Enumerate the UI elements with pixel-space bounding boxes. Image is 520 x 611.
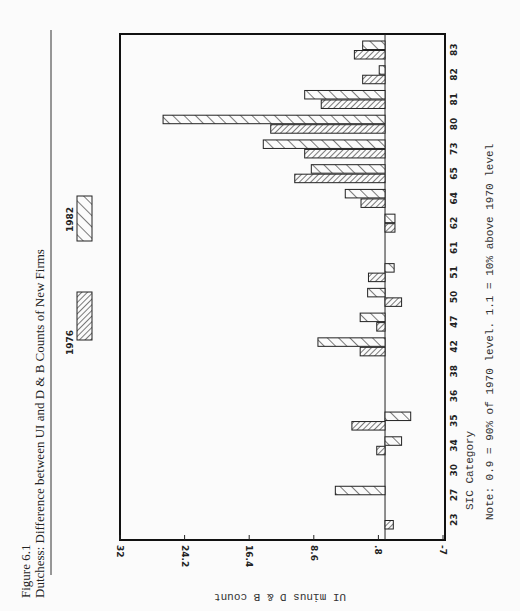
value-axis-title: UI minus D & B count (214, 591, 346, 603)
bar-1976-sic-73 (305, 149, 385, 158)
value-tick-label: 32 (115, 545, 125, 558)
category-tick-label: 35 (449, 415, 459, 428)
figure-title: Dutchess: Difference between UI and D & … (32, 249, 47, 598)
bar-1976-sic-64 (361, 199, 385, 208)
bar-1982-sic-65 (311, 165, 385, 174)
bar-1976-sic-81 (321, 100, 385, 109)
category-axis-title: SIC Category (464, 430, 476, 510)
bar-1982-sic-51 (385, 264, 394, 273)
plot-frame (120, 34, 445, 540)
legend-swatch-1982 (77, 196, 92, 241)
bar-1976-sic-83 (354, 51, 385, 60)
category-tick-label: 27 (449, 489, 459, 502)
bar-1982-sic-47 (360, 313, 385, 322)
bar-1976-sic-82 (363, 75, 385, 84)
chart: Figure 6.1 Dutchess: Difference between … (0, 0, 520, 611)
category-tick-label: 81 (449, 93, 459, 106)
bar-1976-sic-80 (271, 125, 385, 134)
legend-label-1976: 1976 (65, 330, 75, 355)
value-tick-label: 8.6 (309, 545, 319, 561)
category-tick-label: 30 (449, 464, 459, 477)
value-tick-label: 24.2 (180, 545, 190, 567)
bar-1976-sic-65 (295, 174, 385, 183)
category-tick-label: 38 (449, 365, 459, 378)
category-tick-label: 65 (449, 167, 459, 180)
legend: 1976 1982 (65, 196, 92, 355)
bar-1976-sic-50 (385, 298, 402, 307)
bar-1982-sic-81 (305, 90, 385, 99)
category-tick-label: 23 (449, 513, 459, 526)
bar-1982-sic-42 (318, 338, 385, 347)
bar-1982-sic-82 (379, 66, 385, 75)
bar-1976-sic-51 (368, 273, 385, 282)
category-axis-ticks: 2327303435363842475051616264657380818283 (449, 43, 459, 526)
bar-1976-sic-62 (385, 224, 395, 233)
bar-1976-sic-23 (385, 521, 393, 530)
category-tick-label: 82 (449, 68, 459, 81)
bar-1976-sic-34 (377, 446, 385, 455)
legend-label-1982: 1982 (65, 207, 75, 232)
figure-caption: Figure 6.1 Dutchess: Difference between … (18, 30, 51, 598)
bar-1976-sic-35 (352, 422, 385, 431)
bar-1982-sic-50 (368, 288, 385, 297)
figure-number: Figure 6.1 (18, 545, 33, 598)
category-tick-label: 64 (449, 192, 459, 205)
value-tick-label: 16.4 (244, 545, 254, 567)
bar-1976-sic-47 (377, 323, 385, 332)
bar-1976-sic-42 (360, 347, 385, 356)
bars (163, 41, 411, 529)
category-tick-label: 61 (449, 241, 459, 254)
bar-1982-sic-35 (385, 412, 411, 421)
bar-1982-sic-34 (385, 437, 402, 446)
category-tick-label: 36 (449, 390, 459, 403)
bar-1982-sic-83 (363, 41, 385, 50)
bar-1982-sic-62 (385, 214, 395, 223)
category-tick-label: 42 (449, 340, 459, 353)
category-tick-label: 51 (449, 266, 459, 279)
bar-1982-sic-27 (335, 486, 385, 495)
chart-note: Note: 0.9 = 90% of 1970 level. 1.1 = 10%… (484, 144, 496, 520)
category-tick-label: 80 (449, 118, 459, 131)
category-tick-label: 83 (449, 43, 459, 56)
category-tick-label: 62 (449, 217, 459, 230)
category-tick-label: 50 (449, 291, 459, 304)
bar-1982-sic-73 (263, 140, 385, 149)
value-tick-label: -7 (438, 545, 448, 555)
legend-swatch-1976 (77, 292, 92, 340)
bar-1982-sic-64 (345, 189, 385, 198)
category-tick-label: 47 (449, 316, 459, 329)
category-tick-label: 73 (449, 142, 459, 155)
bar-1982-sic-80 (163, 115, 385, 124)
value-tick-label: .8 (373, 545, 383, 555)
category-tick-label: 34 (449, 439, 459, 452)
